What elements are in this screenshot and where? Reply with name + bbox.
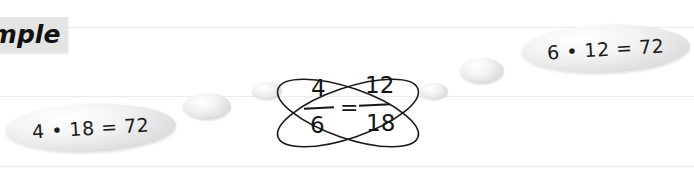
left-product-pill: 4 • 18 = 72 [5, 101, 177, 155]
right-numerator: 12 [365, 72, 394, 98]
equals-sign: = [340, 95, 358, 120]
right-product-text: 6 • 12 = 72 [547, 34, 665, 63]
example-label: ample [0, 17, 68, 53]
decorative-bubble-1 [183, 93, 231, 120]
example-label-text: ample [0, 20, 60, 49]
left-numerator: 4 [311, 75, 326, 101]
left-denominator: 6 [310, 112, 325, 138]
left-product-text: 4 • 18 = 72 [32, 113, 150, 142]
decorative-bubble-4 [460, 58, 504, 84]
diagram-canvas: ample 4 • 18 = 72 6 • 12 = 72 4 6 = 12 1… [0, 0, 694, 194]
right-product-pill: 6 • 12 = 72 [521, 22, 691, 76]
right-denominator: 18 [366, 110, 395, 136]
